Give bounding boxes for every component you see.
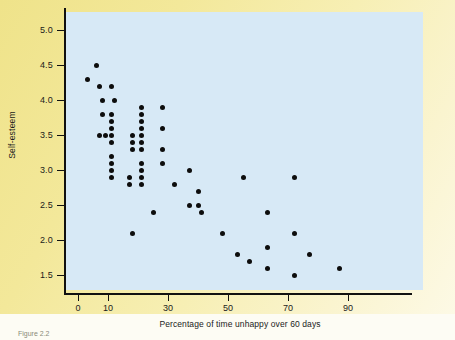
data-point — [109, 168, 114, 173]
x-axis-title: Percentage of time unhappy over 60 days — [159, 319, 320, 329]
y-tick-mark — [57, 170, 64, 171]
y-tick-label: 3.5 — [40, 130, 53, 140]
data-point — [160, 161, 165, 166]
y-tick-label: 4.0 — [40, 95, 53, 105]
x-tick-label: 10 — [103, 303, 113, 313]
data-point — [139, 112, 144, 117]
data-point — [112, 98, 117, 103]
data-point — [103, 133, 108, 138]
y-tick-mark — [57, 65, 64, 66]
data-point — [100, 112, 105, 117]
x-tick-label: 0 — [75, 303, 80, 313]
data-point — [160, 105, 165, 110]
x-tick-mark — [348, 295, 349, 301]
data-point — [100, 98, 105, 103]
data-point — [109, 175, 114, 180]
y-tick-mark — [57, 205, 64, 206]
data-point — [160, 147, 165, 152]
data-point — [85, 77, 90, 82]
data-point — [109, 154, 114, 159]
data-point — [187, 168, 192, 173]
data-point — [130, 231, 135, 236]
data-point — [127, 175, 132, 180]
data-point — [247, 259, 252, 264]
x-tick-mark — [108, 295, 109, 301]
data-point — [109, 119, 114, 124]
data-point — [187, 203, 192, 208]
data-point — [109, 126, 114, 131]
data-point — [97, 133, 102, 138]
data-point — [292, 175, 297, 180]
x-tick-label: 30 — [163, 303, 173, 313]
data-point — [265, 210, 270, 215]
x-tick-mark — [288, 295, 289, 301]
data-point — [139, 126, 144, 131]
data-point — [94, 63, 99, 68]
y-tick-mark — [57, 100, 64, 101]
data-point — [337, 266, 342, 271]
data-point — [139, 161, 144, 166]
data-point — [109, 133, 114, 138]
data-point — [139, 168, 144, 173]
x-tick-label: 90 — [343, 303, 353, 313]
data-point — [196, 189, 201, 194]
y-tick-mark — [57, 240, 64, 241]
data-point — [130, 140, 135, 145]
data-point — [109, 140, 114, 145]
y-tick-mark — [57, 275, 64, 276]
y-tick-mark — [57, 135, 64, 136]
data-point — [235, 252, 240, 257]
x-axis-line — [64, 293, 412, 295]
y-tick-label: 5.0 — [40, 25, 53, 35]
data-point — [172, 182, 177, 187]
data-point — [97, 84, 102, 89]
x-tick-label: 70 — [283, 303, 293, 313]
data-point — [109, 84, 114, 89]
data-point — [307, 252, 312, 257]
y-tick-label: 1.5 — [40, 270, 53, 280]
data-point — [127, 182, 132, 187]
data-point — [265, 245, 270, 250]
data-point — [292, 231, 297, 236]
data-point — [139, 182, 144, 187]
data-point — [160, 126, 165, 131]
y-tick-mark — [57, 30, 64, 31]
data-point — [139, 147, 144, 152]
y-axis-title: Self-esteem — [7, 111, 17, 159]
x-tick-mark — [168, 295, 169, 301]
data-point — [130, 133, 135, 138]
data-point — [196, 203, 201, 208]
data-point — [139, 175, 144, 180]
scatter-plot: 1.52.02.53.03.54.04.55.0 01030507090 Sel… — [0, 0, 455, 340]
data-point — [199, 210, 204, 215]
y-tick-label: 2.5 — [40, 200, 53, 210]
figure-container: 1.52.02.53.03.54.04.55.0 01030507090 Sel… — [0, 0, 455, 340]
x-tick-label: 50 — [223, 303, 233, 313]
data-point — [241, 175, 246, 180]
y-tick-label: 3.0 — [40, 165, 53, 175]
data-point — [265, 266, 270, 271]
figure-caption: Figure 2.2 — [18, 330, 50, 337]
data-point — [139, 133, 144, 138]
data-point — [151, 210, 156, 215]
x-tick-mark — [228, 295, 229, 301]
data-point — [130, 147, 135, 152]
data-point — [139, 140, 144, 145]
y-tick-label: 4.5 — [40, 60, 53, 70]
data-point — [109, 161, 114, 166]
data-point — [220, 231, 225, 236]
y-tick-label: 2.0 — [40, 235, 53, 245]
x-tick-mark — [78, 295, 79, 301]
data-point — [292, 273, 297, 278]
y-axis-line — [64, 8, 66, 295]
data-point — [139, 119, 144, 124]
data-point — [109, 112, 114, 117]
data-point — [139, 105, 144, 110]
